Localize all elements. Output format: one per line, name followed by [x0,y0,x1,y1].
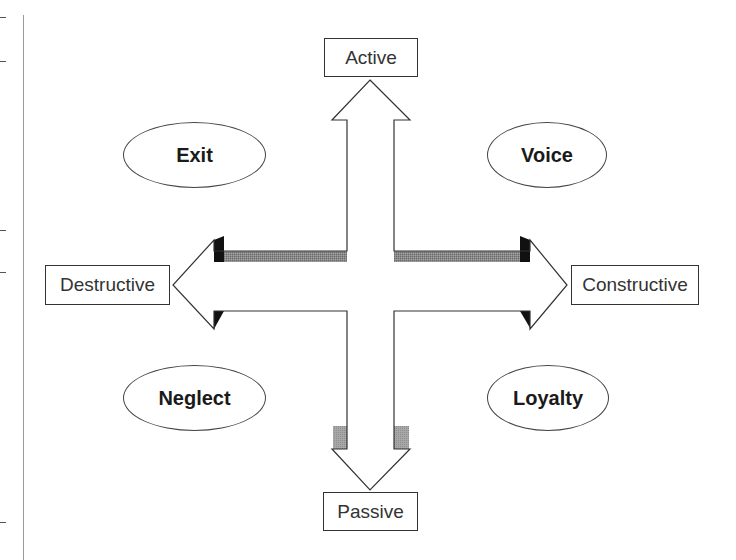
shadow-block-down-right [394,426,409,449]
shadow-band-left [214,251,347,262]
axis-label-passive: Passive [323,492,418,531]
shadow-block-down-left [333,426,347,449]
shadow-corner-right-bottom [520,311,530,328]
shadow-corner-left-bottom [214,311,224,329]
shadow-band-right [394,251,530,262]
axis-label-active: Active [324,38,418,77]
axis-label-destructive: Destructive [45,265,170,305]
quadrant-loyalty: Loyalty [487,365,609,431]
axis-label-constructive: Constructive [571,265,699,305]
quadrant-neglect: Neglect [123,365,266,431]
quadrant-exit: Exit [123,122,266,188]
shadow-corner-left-top [214,236,224,262]
shadow-corner-right-top [520,236,530,262]
quadrant-voice: Voice [487,122,607,188]
